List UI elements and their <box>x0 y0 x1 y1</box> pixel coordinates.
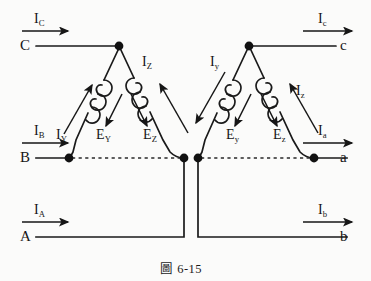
winding-current-label-IY: IY <box>56 128 67 142</box>
arrow-IY <box>64 85 92 134</box>
terminal-label-A: A <box>20 229 31 244</box>
node-primary-apex <box>115 42 124 51</box>
node-primary-bottom-right <box>180 154 189 163</box>
coil-Z <box>126 78 152 122</box>
current-label-Ic: Ic <box>318 12 327 26</box>
winding-current-label-Iz: Iz <box>296 84 305 98</box>
current-label-IC: IC <box>34 12 44 26</box>
figure-diagram: C B A c a b IC IB IA Ic Ia Ib IY IZ Iy I… <box>0 0 371 281</box>
arrow-EY <box>106 94 122 126</box>
arrow-Ey <box>235 94 251 126</box>
current-label-IA: IA <box>34 203 45 217</box>
emf-label-Ez: Ez <box>273 128 285 142</box>
winding-current-label-IZ: IZ <box>142 55 152 69</box>
terminal-label-B: B <box>20 150 30 165</box>
emf-label-EZ: EZ <box>143 128 157 142</box>
node-a <box>310 154 319 163</box>
lead-A-to-node <box>36 160 184 237</box>
arrow-Ez <box>261 94 277 126</box>
junction-nodes <box>65 42 319 163</box>
node-B <box>65 154 74 163</box>
bus-lines <box>36 158 347 237</box>
arrow-EZ <box>131 94 147 126</box>
node-secondary-bottom-left <box>194 154 203 163</box>
current-label-IB: IB <box>34 124 44 138</box>
line-current-arrows <box>22 31 352 222</box>
lead-b-from-node <box>198 160 347 237</box>
node-secondary-apex <box>245 42 254 51</box>
current-label-Ia: Ia <box>318 124 327 138</box>
emf-label-Ey: Ey <box>226 128 239 142</box>
arrow-IZ <box>160 84 188 133</box>
terminal-label-b: b <box>340 229 348 244</box>
terminal-label-c: c <box>340 38 347 53</box>
figure-caption: 圖 6-15 <box>160 258 202 277</box>
terminal-label-a: a <box>340 150 347 165</box>
winding-current-label-Iy: Iy <box>210 55 219 69</box>
coil-y <box>215 80 241 123</box>
coil-Y <box>86 80 112 123</box>
current-label-Ib: Ib <box>318 203 327 217</box>
terminal-label-C: C <box>20 38 30 53</box>
winding-arrows <box>64 72 318 134</box>
coil-z <box>256 78 282 122</box>
arrow-Iy <box>196 72 225 123</box>
emf-label-EY: EY <box>96 128 111 142</box>
